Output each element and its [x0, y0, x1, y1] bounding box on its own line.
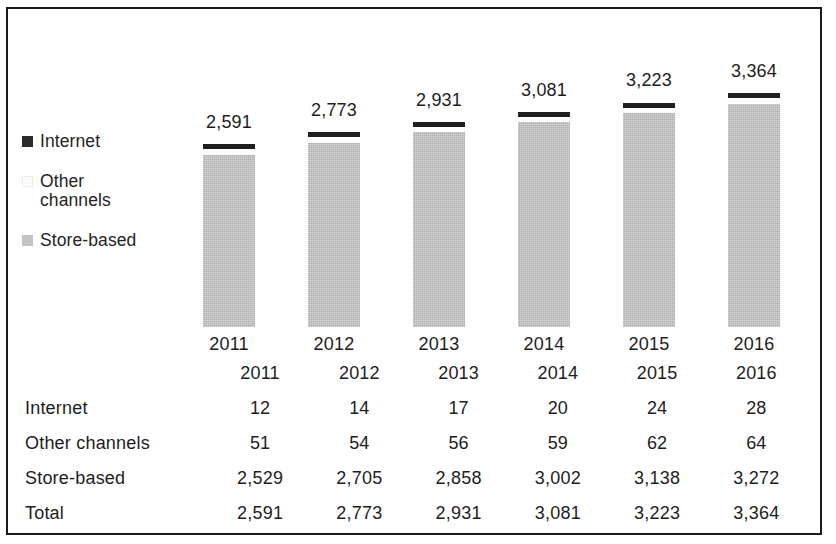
- table-header-row: 2011 2012 2013 2014 2015 2016: [22, 356, 806, 391]
- legend-item-other-channels: Other channels: [22, 172, 182, 210]
- table-cell-store-based-2012: 2,705: [310, 461, 409, 496]
- legend-item-internet: Internet: [22, 132, 182, 151]
- table-column-header-2015: 2015: [607, 356, 706, 391]
- chart-data-table: 2011 2012 2013 2014 2015 2016 Internet 1…: [22, 356, 806, 531]
- table-column-header-2013: 2013: [409, 356, 508, 391]
- table-row-label-internet: Internet: [22, 391, 210, 426]
- table-cell-other-channels-2011: 51: [210, 426, 309, 461]
- table-row: Internet 12 14 17 20 24 28: [22, 391, 806, 426]
- table-cell-store-based-2011: 2,529: [210, 461, 309, 496]
- legend-label-other-channels-line2: channels: [40, 190, 111, 210]
- legend-label-store-based: Store-based: [40, 231, 136, 250]
- table-row: Store-based 2,529 2,705 2,858 3,002 3,13…: [22, 461, 806, 496]
- table-cell-other-channels-2014: 59: [508, 426, 607, 461]
- table-row-label-total: Total: [22, 496, 210, 531]
- table-cell-total-2013: 2,931: [409, 496, 508, 531]
- table-row-label-store-based: Store-based: [22, 461, 210, 496]
- table-column-header-2011: 2011: [210, 356, 309, 391]
- chart-legend: Internet Other channels Store-based: [22, 132, 182, 271]
- legend-item-store-based: Store-based: [22, 231, 182, 250]
- legend-label-other-channels-line1: Other: [40, 171, 84, 191]
- legend-label-internet: Internet: [40, 132, 100, 151]
- table-cell-store-based-2014: 3,002: [508, 461, 607, 496]
- table-column-header-2012: 2012: [310, 356, 409, 391]
- table-cell-internet-2014: 20: [508, 391, 607, 426]
- legend-swatch-store-based-icon: [22, 235, 33, 246]
- table-cell-total-2016: 3,364: [707, 496, 806, 531]
- table-column-header-2014: 2014: [508, 356, 607, 391]
- legend-swatch-other-channels-icon: [22, 176, 33, 187]
- table-cell-store-based-2016: 3,272: [707, 461, 806, 496]
- table-cell-total-2012: 2,773: [310, 496, 409, 531]
- table-row: Other channels 51 54 56 59 62 64: [22, 426, 806, 461]
- table-cell-internet-2012: 14: [310, 391, 409, 426]
- table-cell-internet-2016: 28: [707, 391, 806, 426]
- table-row-label-other-channels: Other channels: [22, 426, 210, 461]
- table-row: Total 2,591 2,773 2,931 3,081 3,223 3,36…: [22, 496, 806, 531]
- table-cell-other-channels-2015: 62: [607, 426, 706, 461]
- table-column-header-2016: 2016: [707, 356, 806, 391]
- table-cell-total-2015: 3,223: [607, 496, 706, 531]
- table-corner-cell: [22, 356, 210, 391]
- table-cell-total-2011: 2,591: [210, 496, 309, 531]
- table-cell-other-channels-2013: 56: [409, 426, 508, 461]
- table-cell-other-channels-2012: 54: [310, 426, 409, 461]
- table-cell-internet-2011: 12: [210, 391, 309, 426]
- table-cell-total-2014: 3,081: [508, 496, 607, 531]
- table-cell-store-based-2013: 2,858: [409, 461, 508, 496]
- table-cell-other-channels-2016: 64: [707, 426, 806, 461]
- legend-label-other-channels: Other channels: [40, 172, 111, 210]
- table-cell-internet-2015: 24: [607, 391, 706, 426]
- table-cell-store-based-2015: 3,138: [607, 461, 706, 496]
- table-cell-internet-2013: 17: [409, 391, 508, 426]
- legend-swatch-internet-icon: [22, 136, 33, 147]
- chart-figure: Internet Other channels Store-based 2,59…: [0, 0, 836, 544]
